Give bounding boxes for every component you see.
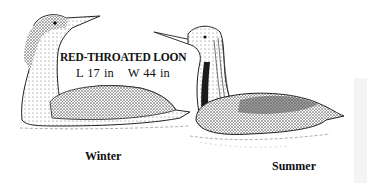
loon-drawings xyxy=(0,0,367,183)
species-title: RED-THROATED LOON xyxy=(60,51,186,63)
length-label: L 17 in xyxy=(76,66,114,81)
summer-caption: Summer xyxy=(272,159,316,174)
size-measurements: L 17 inW 44 in xyxy=(76,66,170,81)
summer-loon-drawing xyxy=(154,26,344,147)
loon-illustration: RED-THROATED LOON L 17 inW 44 in Winter … xyxy=(0,0,367,183)
winter-caption: Winter xyxy=(85,149,121,164)
wingspan-label: W 44 in xyxy=(128,66,170,81)
